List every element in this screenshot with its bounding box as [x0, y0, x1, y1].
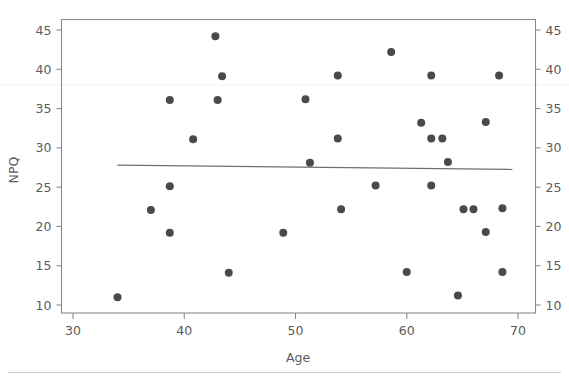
data-point: [214, 96, 222, 104]
data-point: [279, 229, 287, 237]
y-tick-label-left: 25: [36, 180, 52, 195]
data-point: [427, 72, 435, 80]
data-point: [302, 95, 310, 103]
y-tick-label-left: 40: [36, 62, 52, 77]
data-point: [147, 206, 155, 214]
data-point: [334, 72, 342, 80]
plot-background: [0, 0, 569, 382]
data-point: [211, 32, 219, 40]
data-point: [444, 158, 452, 166]
data-point: [427, 134, 435, 142]
data-point: [403, 268, 411, 276]
y-tick-label-left: 45: [36, 23, 52, 38]
x-tick-label: 40: [176, 323, 192, 338]
data-point: [334, 134, 342, 142]
data-point: [225, 269, 233, 277]
data-point: [166, 96, 174, 104]
data-point: [417, 119, 425, 127]
y-axis-title: NPQ: [6, 156, 21, 183]
x-tick-label: 70: [510, 323, 526, 338]
y-tick-label-left: 10: [36, 298, 52, 313]
data-point: [189, 135, 197, 143]
y-tick-label-left: 15: [36, 258, 52, 273]
x-tick-label: 30: [65, 323, 81, 338]
y-tick-label-left: 35: [36, 101, 52, 116]
y-tick-label-left: 20: [36, 219, 52, 234]
y-tick-label-right: 45: [546, 23, 562, 38]
y-tick-label-left: 30: [36, 140, 52, 155]
data-point: [218, 72, 226, 80]
y-tick-label-right: 40: [546, 62, 562, 77]
data-point: [337, 205, 345, 213]
data-point: [438, 134, 446, 142]
data-point: [166, 229, 174, 237]
data-point: [427, 182, 435, 190]
data-point: [482, 118, 490, 126]
data-point: [482, 228, 490, 236]
data-point: [495, 72, 503, 80]
y-tick-label-right: 10: [546, 298, 562, 313]
data-point: [166, 182, 174, 190]
data-point: [306, 159, 314, 167]
x-tick-label: 50: [288, 323, 304, 338]
y-tick-label-right: 30: [546, 140, 562, 155]
y-tick-label-right: 35: [546, 101, 562, 116]
x-tick-label: 60: [399, 323, 415, 338]
chart-canvas: 1015202530354045 1015202530354045 304050…: [0, 0, 569, 382]
data-point: [372, 182, 380, 190]
x-axis-title: Age: [286, 350, 310, 365]
data-point: [470, 205, 478, 213]
data-point: [498, 204, 506, 212]
data-point: [459, 205, 467, 213]
scatter-plot-figure: 1015202530354045 1015202530354045 304050…: [0, 0, 569, 382]
data-point: [114, 293, 122, 301]
data-point: [387, 48, 395, 56]
y-tick-label-right: 15: [546, 258, 562, 273]
y-tick-label-right: 20: [546, 219, 562, 234]
data-point: [454, 292, 462, 300]
y-tick-label-right: 25: [546, 180, 562, 195]
data-point: [498, 268, 506, 276]
